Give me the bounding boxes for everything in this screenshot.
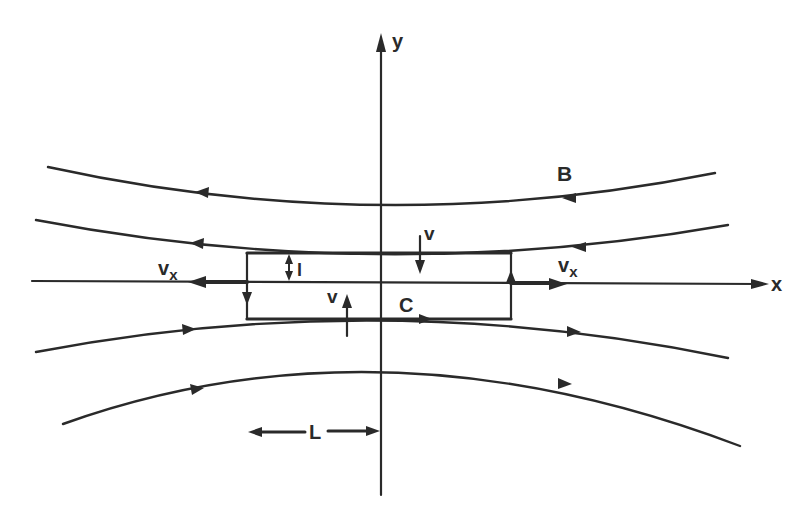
outflow-left-label: vx	[158, 257, 178, 283]
double-arrow-down-icon	[285, 271, 293, 281]
half-length-label: L	[309, 421, 321, 443]
inflow-bottom-label: v	[327, 286, 338, 307]
y-axis: y	[376, 30, 404, 495]
arrow-right-icon	[182, 324, 196, 335]
arrow-right-icon	[567, 326, 581, 337]
half-thickness-label: l	[297, 260, 302, 280]
field-label: B	[557, 162, 572, 185]
y-axis-arrow-icon	[376, 33, 386, 52]
outflow-right-label: vx	[558, 254, 578, 280]
arrow-left-icon	[572, 242, 586, 252]
x-axis-label: x	[771, 273, 782, 295]
dimension-right-arrow-icon	[366, 426, 380, 436]
reconnection-diagram: y x C vx	[0, 0, 809, 525]
dimension-left-arrow-icon	[248, 427, 262, 437]
inflow-bottom: v	[327, 286, 352, 336]
outflow-right-arrow-icon	[549, 278, 567, 290]
half-length-marker: L	[248, 421, 380, 443]
outflow-right: vx	[511, 254, 578, 290]
x-axis-arrow-icon	[751, 279, 769, 289]
inflow-up-arrow-icon	[342, 294, 352, 308]
half-thickness-marker: l	[285, 254, 302, 281]
inflow-top: v	[415, 223, 435, 274]
arrow-right-icon	[558, 378, 572, 389]
outflow-left-arrow-icon	[188, 276, 206, 288]
field-line-4	[63, 372, 740, 446]
contour-label: C	[399, 294, 413, 316]
double-arrow-up-icon	[285, 254, 293, 264]
contour-down-arrow-icon	[242, 292, 252, 305]
inflow-top-label: v	[424, 223, 435, 244]
x-axis: x	[32, 273, 782, 295]
y-axis-label: y	[392, 30, 404, 52]
arrow-left-icon	[190, 238, 204, 249]
outflow-left: vx	[158, 257, 247, 288]
contour-c: C	[242, 253, 516, 324]
inflow-down-arrow-icon	[415, 260, 425, 274]
arrow-left-icon	[195, 187, 209, 198]
